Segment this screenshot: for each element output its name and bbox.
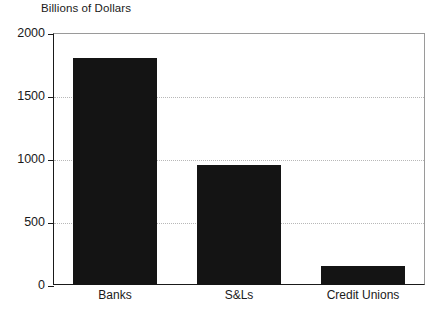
- y-tick-label: 1000: [17, 152, 45, 166]
- x-tick-label: S&Ls: [225, 288, 254, 302]
- bar: [321, 266, 405, 285]
- y-tick-label: 2000: [17, 26, 45, 40]
- x-tick-label: Banks: [98, 288, 131, 302]
- bar: [197, 165, 281, 285]
- y-tick-label: 500: [24, 215, 45, 229]
- x-tick-label: Credit Unions: [327, 288, 400, 302]
- y-tick-mark: [48, 286, 54, 287]
- bar-series: [53, 33, 425, 285]
- y-axis-tick-labels: 2000 1500 1000 500 0: [0, 0, 45, 311]
- x-axis-tick-labels: Banks S&Ls Credit Unions: [53, 288, 425, 310]
- chart-title: Billions of Dollars: [41, 2, 131, 14]
- bar-chart-figure: Billions of Dollars 2000 1500 1000 500 0…: [0, 0, 437, 311]
- y-tick-label: 0: [38, 278, 45, 292]
- bar: [73, 58, 157, 285]
- y-tick-label: 1500: [17, 89, 45, 103]
